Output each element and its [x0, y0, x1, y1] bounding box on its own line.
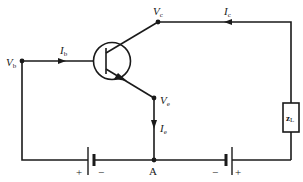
- collector-node-label: Vc: [153, 5, 163, 19]
- load-label: zL: [286, 113, 294, 124]
- left-battery-plus: +: [76, 166, 82, 178]
- circuit-diagram: Vb Ib Vc Ic zL Ve Ie A: [0, 0, 303, 182]
- right-battery-icon: − +: [212, 147, 241, 178]
- left-wire: [22, 61, 88, 160]
- emitter-current-label: Ie: [159, 122, 167, 136]
- collector-current-arrow-icon: [224, 19, 232, 25]
- base-node-label: Vb: [6, 56, 17, 70]
- ground-node-label: A: [149, 165, 157, 177]
- emitter-current-arrow-icon: [151, 120, 157, 129]
- bottom-branch: A: [22, 61, 291, 177]
- npn-transistor-icon: [94, 22, 159, 98]
- base-branch: Vb Ib: [6, 44, 94, 70]
- ground-node-dot: [152, 158, 157, 163]
- load-impedance: zL: [283, 103, 299, 160]
- emitter-node-label: Ve: [160, 94, 170, 108]
- left-battery-minus: −: [98, 166, 104, 178]
- collector-branch: Vc Ic: [153, 5, 291, 103]
- right-battery-minus: −: [212, 166, 218, 178]
- emitter-branch: Ve Ie: [151, 94, 170, 160]
- base-current-arrow-icon: [58, 58, 66, 64]
- base-current-label: Ib: [59, 44, 68, 58]
- collector-wire: [158, 22, 291, 103]
- collector-current-label: Ic: [223, 5, 231, 19]
- left-battery-icon: + −: [76, 147, 104, 178]
- right-battery-plus: +: [235, 166, 241, 178]
